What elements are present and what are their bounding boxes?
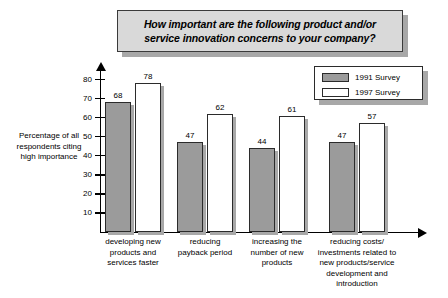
bar-1991-group-1 — [105, 102, 131, 232]
y-tick-label-30: 30 — [72, 170, 92, 179]
chart-canvas: How important are the following product … — [0, 0, 448, 298]
bar-value-label: 47 — [338, 131, 347, 140]
y-tick-label-40: 40 — [72, 151, 92, 160]
x-category-line: development and — [305, 269, 409, 280]
bar-rect — [105, 102, 131, 232]
bar-value-label: 47 — [186, 131, 195, 140]
title-line-2: service innovation concerns to your comp… — [144, 32, 375, 44]
bar-rect — [249, 148, 275, 232]
y-tick-label-10: 10 — [72, 208, 92, 217]
bar-value-label: 61 — [288, 105, 297, 114]
x-category-line: services faster — [91, 258, 175, 269]
y-tick-label-70: 70 — [72, 94, 92, 103]
bar-value-label: 62 — [216, 103, 225, 112]
bar-rect — [329, 142, 355, 232]
bar-value-label: 68 — [114, 91, 123, 100]
x-category-line: investments related to — [305, 248, 409, 259]
y-tick-label-20: 20 — [72, 189, 92, 198]
bar-rect — [177, 142, 203, 232]
bar-1997-group-2 — [207, 114, 233, 232]
bar-rect — [207, 114, 233, 232]
bar-1997-group-3 — [279, 116, 305, 232]
plot-area: 6878476244614757 — [100, 70, 420, 232]
bar-rect — [279, 116, 305, 232]
page-title: How important are the following product … — [136, 17, 384, 45]
y-tick-label-60: 60 — [72, 113, 92, 122]
bar-value-label: 44 — [258, 137, 267, 146]
bar-value-label: 78 — [144, 72, 153, 81]
bar-1997-group-1 — [135, 83, 161, 232]
bar-1991-group-4 — [329, 142, 355, 232]
bar-rect — [359, 123, 385, 232]
y-tick-label-50: 50 — [72, 132, 92, 141]
bar-1997-group-4 — [359, 123, 385, 232]
bar-1991-group-2 — [177, 142, 203, 232]
x-category-line: introduction — [305, 279, 409, 290]
bar-1991-group-3 — [249, 148, 275, 232]
x-category-line: reducing costs/ — [305, 237, 409, 248]
bar-rect — [135, 83, 161, 232]
title-line-1: How important are the following product … — [144, 18, 376, 30]
title-banner: How important are the following product … — [117, 10, 403, 52]
x-category-label-4: reducing costs/investments related tonew… — [305, 237, 409, 290]
y-tick-label-80: 80 — [72, 75, 92, 84]
bar-value-label: 57 — [368, 112, 377, 121]
x-category-line: new products/service — [305, 258, 409, 269]
